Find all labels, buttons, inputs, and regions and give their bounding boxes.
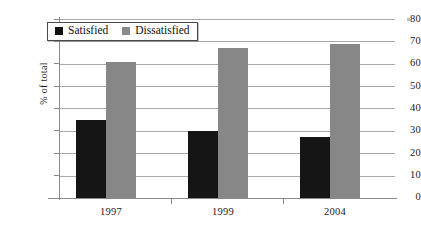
x-tick-label-1999: 1999 — [198, 206, 248, 217]
x-axis-line — [48, 198, 397, 199]
y-axis-line — [59, 17, 60, 200]
legend-swatch-icon — [122, 27, 130, 35]
legend-entry-dissatisfied: Dissatisfied — [122, 25, 189, 37]
bar-dissatisfied-2004 — [330, 44, 360, 198]
plot-area — [60, 19, 395, 198]
corner-artifact — [407, 18, 410, 21]
y-axis-title: % of total — [38, 39, 49, 129]
legend-label: Dissatisfied — [135, 25, 189, 37]
gridline — [60, 19, 395, 20]
legend-swatch-icon — [55, 27, 63, 35]
bar-satisfied-1999 — [188, 131, 218, 198]
x-tick-mark — [283, 198, 284, 204]
legend-label: Satisfied — [68, 25, 108, 37]
gridline — [60, 41, 395, 42]
legend-entry-satisfied: Satisfied — [55, 25, 108, 37]
chart-legend: Satisfied Dissatisfied — [47, 22, 198, 41]
x-tick-mark — [171, 198, 172, 204]
bar-satisfied-1997 — [76, 120, 106, 198]
bar-dissatisfied-1999 — [218, 48, 248, 198]
bar-chart: 80 70 60 50 40 30 20 10 0 % of total — [0, 0, 421, 232]
x-tick-label-2004: 2004 — [310, 206, 360, 217]
bar-satisfied-2004 — [300, 137, 330, 198]
x-tick-label-1997: 1997 — [86, 206, 136, 217]
bar-dissatisfied-1997 — [106, 62, 136, 198]
